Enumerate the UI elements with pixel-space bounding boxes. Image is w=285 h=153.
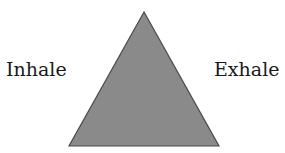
exhale-label: Exhale bbox=[214, 60, 279, 79]
inhale-label: Inhale bbox=[6, 60, 67, 79]
triangle-polygon bbox=[69, 12, 219, 146]
breathing-triangle-diagram: Inhale Exhale bbox=[0, 0, 285, 153]
